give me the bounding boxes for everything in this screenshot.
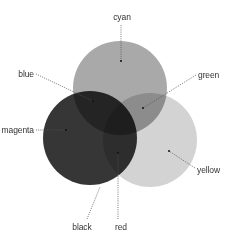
label-yellow: yellow <box>197 165 221 175</box>
leader-black <box>87 187 100 219</box>
dot-magenta <box>65 129 67 131</box>
circle-magenta <box>43 91 137 185</box>
label-cyan: cyan <box>113 12 131 22</box>
label-magenta: magenta <box>2 125 35 135</box>
dot-red <box>117 152 119 154</box>
label-red: red <box>115 222 127 232</box>
label-green: green <box>198 70 220 80</box>
dot-blue <box>92 100 94 102</box>
circles-group <box>43 41 197 187</box>
dot-cyan <box>120 60 122 62</box>
color-venn-diagram: cyan blue green magenta yellow black red <box>0 0 225 233</box>
dot-green <box>142 107 144 109</box>
dot-yellow <box>168 150 170 152</box>
label-black: black <box>72 222 92 232</box>
label-blue: blue <box>18 69 34 79</box>
